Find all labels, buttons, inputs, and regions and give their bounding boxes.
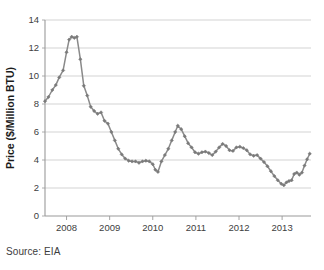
svg-text:2011: 2011 xyxy=(186,222,206,233)
svg-text:8: 8 xyxy=(34,98,39,109)
natural-gas-price-chart: 02468101214 200820092010201120122013 Pri… xyxy=(0,0,324,270)
svg-text:2013: 2013 xyxy=(272,222,293,233)
x-axis: 200820092010201120122013 xyxy=(45,216,311,233)
svg-text:12: 12 xyxy=(28,42,39,53)
svg-text:4: 4 xyxy=(34,154,39,165)
chart-plot-area: 02468101214 200820092010201120122013 Pri… xyxy=(0,0,324,246)
svg-text:2: 2 xyxy=(34,182,39,193)
gridlines xyxy=(45,20,311,188)
y-axis: 02468101214 xyxy=(28,14,45,221)
price-series-markers xyxy=(43,35,311,187)
source-note: Source: EIA xyxy=(6,246,60,257)
svg-text:0: 0 xyxy=(34,210,39,221)
svg-text:2008: 2008 xyxy=(56,222,77,233)
price-series-line xyxy=(45,37,310,185)
svg-text:2009: 2009 xyxy=(99,222,120,233)
svg-text:6: 6 xyxy=(34,126,39,137)
svg-text:2012: 2012 xyxy=(228,222,249,233)
svg-text:10: 10 xyxy=(28,70,39,81)
svg-text:2010: 2010 xyxy=(142,222,163,233)
svg-text:14: 14 xyxy=(28,14,39,25)
y-axis-title: Price ($/Million BTU) xyxy=(4,67,16,169)
